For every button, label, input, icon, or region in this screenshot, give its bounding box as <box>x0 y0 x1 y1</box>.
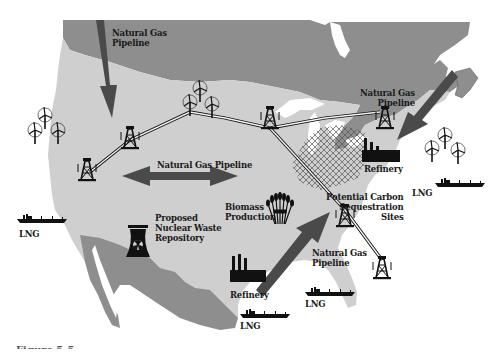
label-line: Refinery <box>230 290 269 300</box>
label-line: Natural Gas Pipeline <box>157 160 252 170</box>
lng-tanker-icon <box>240 309 290 318</box>
label-line: Sites <box>326 212 404 222</box>
label-line: Potential Carbon <box>326 192 404 202</box>
label-line: Natural Gas <box>312 248 367 258</box>
label-line: LNG <box>19 229 39 239</box>
label-line: Natural Gas <box>112 28 167 38</box>
energy-infrastructure-map: Natural Gas Pipeline Natural Gas Pipelin… <box>0 0 503 352</box>
label-line: Pipeline <box>360 98 415 108</box>
oil-derrick-icon <box>373 256 391 279</box>
label-line: Pipeline <box>112 38 167 48</box>
label-line: Pipeline <box>312 258 367 268</box>
label-line: LNG <box>305 299 325 309</box>
label-line: Refinery <box>364 164 403 174</box>
label-lng-gulf-east: LNG <box>305 299 325 309</box>
label-line: Biomass <box>225 202 276 212</box>
label-lng-east: LNG <box>412 188 432 198</box>
label-refinery-northeast: Refinery <box>364 164 403 174</box>
label-pipeline-northwest: Natural Gas Pipeline <box>112 28 167 48</box>
label-line: LNG <box>412 188 432 198</box>
label-pipeline-southeast: Natural Gas Pipeline <box>312 248 367 268</box>
label-line: Nuclear Waste <box>155 223 222 233</box>
wind-turbines-northeast <box>425 127 465 164</box>
label-biomass: Biomass Production <box>225 202 276 222</box>
label-refinery-south: Refinery <box>230 290 269 300</box>
label-line: LNG <box>240 321 260 331</box>
label-carbon-sequestration: Potential Carbon Sequestration Sites <box>326 192 404 222</box>
label-line: Sequestration <box>326 202 404 212</box>
label-line: Proposed <box>155 213 222 223</box>
label-line: Repository <box>155 233 222 243</box>
label-line: Natural Gas <box>360 88 415 98</box>
label-pipeline-northeast: Natural Gas Pipeline <box>360 88 415 108</box>
lng-tanker-icon <box>435 178 485 187</box>
label-pipeline-center: Natural Gas Pipeline <box>157 160 252 170</box>
label-lng-gulf-west: LNG <box>240 321 260 331</box>
label-lng-west: LNG <box>19 229 39 239</box>
label-line: Production <box>225 212 276 222</box>
label-nuclear-repository: Proposed Nuclear Waste Repository <box>155 213 222 243</box>
